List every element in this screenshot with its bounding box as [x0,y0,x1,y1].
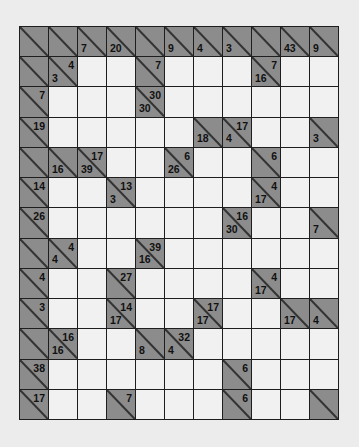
entry-cell[interactable] [78,87,106,116]
entry-cell[interactable] [49,360,77,389]
entry-cell[interactable] [165,118,193,147]
entry-cell[interactable] [49,208,77,237]
across-sum-clue: 32 [178,332,190,343]
entry-cell[interactable] [78,299,106,328]
entry-cell[interactable] [281,148,309,177]
entry-cell[interactable] [49,118,77,147]
entry-cell[interactable] [136,360,164,389]
entry-cell[interactable] [107,208,135,237]
kakuro-board: 7209434394377167303019181743161739626614… [19,26,339,420]
entry-cell[interactable] [136,178,164,207]
entry-cell[interactable] [165,269,193,298]
entry-cell[interactable] [223,178,251,207]
entry-cell[interactable] [310,269,338,298]
entry-cell[interactable] [49,299,77,328]
entry-cell[interactable] [223,299,251,328]
entry-cell[interactable] [78,360,106,389]
entry-cell[interactable] [223,329,251,358]
entry-cell[interactable] [281,360,309,389]
entry-cell[interactable] [136,269,164,298]
entry-cell[interactable] [310,329,338,358]
entry-cell[interactable] [194,208,222,237]
entry-cell[interactable] [310,57,338,86]
entry-cell[interactable] [310,239,338,268]
entry-cell[interactable] [78,239,106,268]
entry-cell[interactable] [252,390,280,419]
entry-cell[interactable] [194,178,222,207]
entry-cell[interactable] [165,390,193,419]
entry-cell[interactable] [281,208,309,237]
entry-cell[interactable] [252,299,280,328]
entry-cell[interactable] [194,239,222,268]
entry-cell[interactable] [107,87,135,116]
entry-cell[interactable] [49,178,77,207]
entry-cell[interactable] [107,57,135,86]
block-cell [252,27,280,56]
entry-cell[interactable] [78,329,106,358]
entry-cell[interactable] [107,118,135,147]
entry-cell[interactable] [252,87,280,116]
entry-cell[interactable] [165,360,193,389]
entry-cell[interactable] [194,57,222,86]
clue-cell: 7 [136,57,164,86]
down-sum-clue: 16 [52,164,64,175]
entry-cell[interactable] [194,269,222,298]
entry-cell[interactable] [78,118,106,147]
across-sum-clue: 7 [271,60,277,71]
entry-cell[interactable] [165,57,193,86]
entry-cell[interactable] [136,148,164,177]
entry-cell[interactable] [78,269,106,298]
across-sum-clue: 38 [33,363,45,374]
entry-cell[interactable] [194,329,222,358]
entry-cell[interactable] [281,118,309,147]
clue-cell: 626 [165,148,193,177]
entry-cell[interactable] [281,239,309,268]
entry-cell[interactable] [281,87,309,116]
entry-cell[interactable] [194,360,222,389]
entry-cell[interactable] [281,329,309,358]
entry-cell[interactable] [78,178,106,207]
entry-cell[interactable] [252,329,280,358]
entry-cell[interactable] [107,360,135,389]
entry-cell[interactable] [136,299,164,328]
entry-cell[interactable] [252,360,280,389]
entry-cell[interactable] [49,269,77,298]
entry-cell[interactable] [49,87,77,116]
entry-cell[interactable] [223,57,251,86]
entry-cell[interactable] [136,118,164,147]
entry-cell[interactable] [223,269,251,298]
entry-cell[interactable] [78,57,106,86]
entry-cell[interactable] [194,390,222,419]
entry-cell[interactable] [281,57,309,86]
entry-cell[interactable] [252,239,280,268]
entry-cell[interactable] [310,87,338,116]
entry-cell[interactable] [165,87,193,116]
entry-cell[interactable] [281,390,309,419]
block-cell [20,239,48,268]
entry-cell[interactable] [310,148,338,177]
entry-cell[interactable] [310,178,338,207]
entry-cell[interactable] [281,269,309,298]
entry-cell[interactable] [107,329,135,358]
entry-cell[interactable] [281,178,309,207]
entry-cell[interactable] [107,148,135,177]
entry-cell[interactable] [49,390,77,419]
entry-cell[interactable] [78,390,106,419]
entry-cell[interactable] [136,208,164,237]
down-sum-clue: 4 [52,254,58,265]
entry-cell[interactable] [165,299,193,328]
entry-cell[interactable] [165,178,193,207]
entry-cell[interactable] [78,208,106,237]
entry-cell[interactable] [223,87,251,116]
entry-cell[interactable] [223,148,251,177]
entry-cell[interactable] [165,208,193,237]
entry-cell[interactable] [165,239,193,268]
entry-cell[interactable] [107,239,135,268]
entry-cell[interactable] [252,208,280,237]
entry-cell[interactable] [136,390,164,419]
entry-cell[interactable] [252,118,280,147]
entry-cell[interactable] [194,148,222,177]
entry-cell[interactable] [194,87,222,116]
entry-cell[interactable] [310,360,338,389]
entry-cell[interactable] [223,239,251,268]
